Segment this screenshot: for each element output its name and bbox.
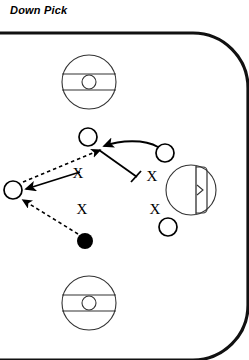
player-o-top (79, 128, 97, 146)
pass-puck-to-o-left (23, 200, 78, 234)
goal-crease (166, 165, 216, 215)
net-icon (197, 185, 203, 195)
player-x-upper-left: X (73, 165, 84, 181)
player-o-right (156, 144, 174, 162)
faceoff-circle-top (62, 55, 116, 109)
puck (77, 233, 93, 249)
player-x-upper-right: X (147, 168, 158, 184)
player-x-lower-right: X (150, 201, 161, 217)
skate-o-right-to-top (104, 141, 158, 147)
player-o-bottom-right (159, 218, 177, 236)
down-pick-block (99, 150, 141, 182)
rink-boards (0, 33, 248, 360)
hockey-rink-diagram: X X X X (0, 0, 249, 360)
faceoff-circle-bottom (62, 276, 116, 330)
player-x-lower-left: X (77, 201, 88, 217)
player-o-left (4, 181, 22, 199)
